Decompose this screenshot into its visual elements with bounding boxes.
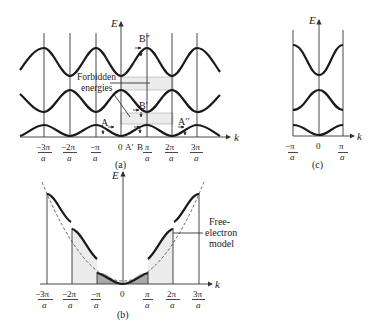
svg-text:a: a — [194, 153, 199, 163]
panel-b-caption: (b) — [117, 309, 129, 321]
free-electron-label-line1: Free- — [209, 216, 230, 227]
svg-text:π: π — [339, 141, 344, 151]
panel-c-caption: (c) — [312, 159, 323, 171]
svg-text:−π: −π — [90, 142, 100, 152]
svg-text:a: a — [42, 300, 47, 310]
svg-text:2π: 2π — [165, 142, 175, 152]
middle-band-curve — [293, 90, 343, 110]
point-a-prime-label: A′ — [125, 142, 133, 152]
panel-b-tick-labels: −3π a −2π a −π a 0 π a 2π a 3π a — [35, 289, 205, 310]
free-electron-label-line2: electron — [205, 227, 237, 238]
svg-text:−3π: −3π — [36, 142, 51, 152]
svg-text:a: a — [93, 153, 98, 163]
svg-text:2π: 2π — [167, 289, 177, 299]
svg-text:a: a — [340, 152, 345, 162]
svg-text:−2π: −2π — [62, 289, 77, 299]
svg-text:a: a — [169, 153, 174, 163]
e-axis-label: E — [110, 17, 118, 29]
svg-text:a: a — [94, 300, 99, 310]
svg-text:a: a — [145, 300, 150, 310]
lower-band-curve — [20, 125, 220, 136]
svg-text:3π: 3π — [193, 289, 203, 299]
e-axis-label: E — [308, 14, 316, 26]
panel-b-free-electron-comparison: E k Free- electron model −3π a −2π a −π … — [35, 169, 237, 321]
band-structure-figure: E k A B′′ B′ A′′ Forbidden energies — [0, 0, 377, 331]
svg-text:a: a — [196, 300, 201, 310]
forbidden-energies-label-line2: energies — [81, 83, 113, 93]
free-electron-label-line3: model — [209, 238, 234, 249]
point-a-label: A — [101, 117, 109, 128]
k-axis-label: k — [234, 131, 240, 143]
svg-text:a: a — [145, 153, 150, 163]
svg-text:−3π: −3π — [35, 289, 50, 299]
lower-band-curve — [293, 125, 343, 135]
svg-text:π: π — [145, 143, 150, 152]
svg-text:0: 0 — [118, 142, 123, 152]
upper-band-curve — [20, 48, 220, 76]
upper-band-curve — [293, 45, 343, 75]
k-axis-label: k — [215, 278, 221, 290]
svg-text:−π: −π — [285, 141, 295, 151]
svg-text:3π: 3π — [191, 142, 201, 152]
point-b-label: B — [137, 142, 143, 152]
point-b-double-prime-label: B′′ — [139, 33, 150, 44]
svg-text:a: a — [41, 153, 46, 163]
svg-text:0: 0 — [316, 141, 321, 151]
e-axis-label: E — [111, 169, 119, 181]
zone-boundary-lines — [44, 33, 197, 137]
svg-text:−2π: −2π — [61, 142, 76, 152]
svg-text:π: π — [145, 289, 150, 299]
middle-band-curve — [20, 90, 220, 112]
svg-text:a: a — [290, 152, 295, 162]
panel-a-extended-zone: E k A B′′ B′ A′′ Forbidden energies — [20, 17, 240, 171]
point-b-prime-label: B′ — [139, 100, 148, 111]
k-axis-label: k — [357, 130, 363, 142]
forbidden-energies-label-line1: Forbidden — [77, 72, 116, 82]
svg-text:−π: −π — [91, 289, 101, 299]
svg-text:a: a — [67, 153, 72, 163]
point-a-double-prime-label: A′′ — [178, 116, 190, 127]
svg-text:0: 0 — [120, 289, 125, 299]
band-segment-3-right — [174, 194, 199, 222]
band-segment-3-left — [47, 194, 71, 222]
svg-text:a: a — [170, 300, 175, 310]
panel-c-reduced-zone: E k −π a 0 π a (c) — [285, 14, 363, 171]
svg-text:a: a — [68, 300, 73, 310]
